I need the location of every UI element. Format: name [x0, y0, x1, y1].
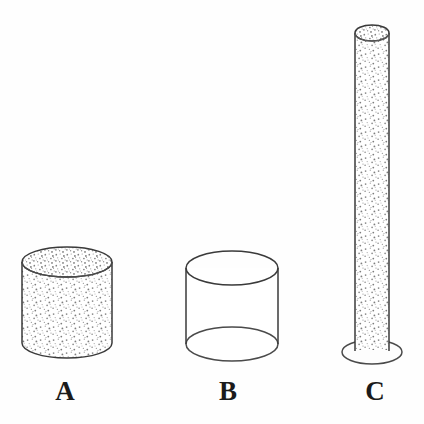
- cylinder-c-fill: [355, 33, 389, 350]
- figure-canvas: A B C: [0, 0, 424, 424]
- cylinder-b: [186, 251, 278, 361]
- cylinder-b-interior: [186, 268, 278, 361]
- cylinders-illustration: [0, 0, 424, 424]
- cylinder-a: [22, 247, 112, 358]
- cylinder-c: [342, 25, 402, 364]
